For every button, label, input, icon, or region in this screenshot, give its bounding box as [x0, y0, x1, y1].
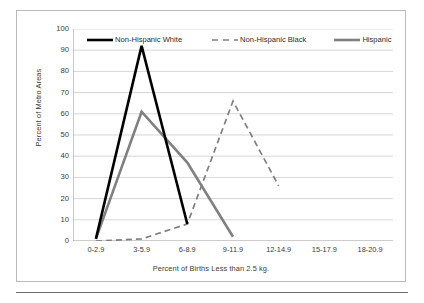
x-axis-tick-labels: 0-2.9 3-5.9 6-8.9 9-11.9 12-14.9 15-17.9… [73, 245, 393, 259]
y-tick-50: 50 [45, 131, 69, 139]
legend-line-dashed-gray-icon [212, 36, 238, 44]
legend-item-non-hispanic-black[interactable]: Non-Hispanic Black [212, 35, 306, 44]
y-tick-80: 80 [45, 67, 69, 75]
chart-page: Percent of Metro Areas Percent of Births… [0, 0, 424, 303]
y-axis-tick-labels: 100 90 80 70 60 50 40 30 20 10 0 [43, 29, 69, 241]
y-tick-20: 20 [45, 195, 69, 203]
y-tick-0: 0 [45, 237, 69, 245]
y-tick-60: 60 [45, 110, 69, 118]
y-tick-100: 100 [45, 25, 69, 33]
legend-label-hispanic: Hispanic [362, 35, 391, 44]
y-tick-70: 70 [45, 89, 69, 97]
figure-frame: Percent of Metro Areas Percent of Births… [16, 10, 406, 282]
x-tick-18-20.9: 18-20.9 [340, 245, 400, 254]
bottom-horizontal-rule [16, 292, 408, 293]
y-tick-40: 40 [45, 152, 69, 160]
gridlines [73, 29, 393, 220]
series-non-hispanic-white [96, 46, 187, 239]
legend-label-non-hispanic-black: Non-Hispanic Black [240, 35, 306, 44]
y-tick-10: 10 [45, 216, 69, 224]
y-tick-30: 30 [45, 173, 69, 181]
legend-line-solid-black-icon [87, 36, 113, 44]
x-axis-title: Percent of Births Less than 2.5 kg. [17, 264, 405, 273]
legend-item-hispanic[interactable]: Hispanic [334, 35, 391, 44]
y-tick-90: 90 [45, 46, 69, 54]
chart-svg [73, 29, 393, 241]
legend-label-non-hispanic-white: Non-Hispanic White [115, 35, 182, 44]
chart-legend: Non-Hispanic White Non-Hispanic Black Hi… [79, 33, 397, 46]
plot-area [73, 29, 393, 241]
legend-item-non-hispanic-white[interactable]: Non-Hispanic White [87, 35, 182, 44]
legend-line-solid-gray-icon [334, 36, 360, 44]
y-axis-title: Percent of Metro Areas [34, 53, 43, 163]
